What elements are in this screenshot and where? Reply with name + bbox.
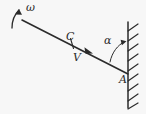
angle-arc-arrowhead — [121, 40, 127, 45]
label-angle: α — [104, 35, 111, 46]
label-omega: ω — [26, 2, 35, 13]
label-velocity: V — [73, 52, 81, 63]
angular-velocity-arrowhead — [15, 9, 22, 15]
rod-line — [22, 20, 128, 74]
velocity-arrowhead — [84, 47, 93, 54]
physics-diagram: ω C V α A — [0, 0, 146, 114]
label-center-of-mass: C — [66, 31, 74, 42]
label-contact-point: A — [119, 74, 127, 85]
wall-hatching — [128, 24, 138, 109]
